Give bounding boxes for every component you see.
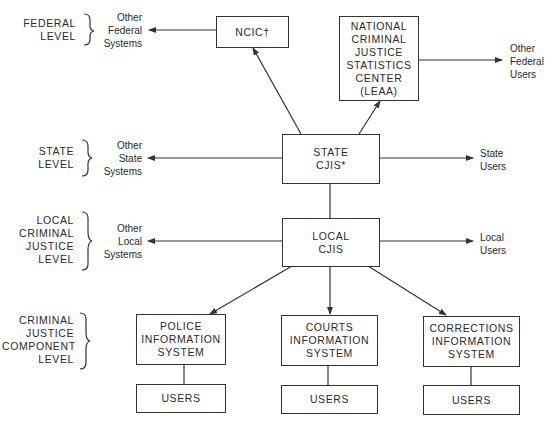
node-police-information-system: POLICE INFORMATION SYSTEM [136,314,226,365]
brace-state [82,140,92,176]
external-other-federal-systems: Other Federal Systems [96,11,142,50]
node-ncic: NCIC† [216,16,289,48]
node-courts-users: USERS [281,385,378,414]
external-other-federal-users: Other Federal Users [510,42,554,81]
node-state-cjis: STATE CJIS* [282,134,380,184]
node-corrections-users: USERS [423,385,520,415]
level-label-federal: FEDERALLEVEL [20,17,76,43]
node-police-users: USERS [136,384,226,413]
level-label-local: LOCALCRIMINAL JUSTICELEVEL [10,214,74,266]
brace-federal [84,14,94,45]
node-corrections-information-system: CORRECTIONS INFORMATION SYSTEM [423,316,520,367]
brace-local [82,212,92,270]
level-label-state: STATELEVEL [20,145,74,171]
external-other-state-systems: Other State Systems [96,139,142,178]
node-courts-information-system: COURTS INFORMATION SYSTEM [281,315,378,366]
brace-component [80,313,90,369]
node-local-cjis: LOCAL CJIS [282,218,380,267]
external-state-users: State Users [480,147,524,173]
external-local-users: Local Users [480,231,524,257]
edge-state-ncic [253,48,301,134]
edge-local-corrections [368,266,446,315]
edge-state-ncjss [359,101,380,134]
external-other-local-systems: Other Local Systems [96,222,142,261]
level-label-component: CRIMINALJUSTICE COMPONENTLEVEL [2,314,74,366]
node-ncjss: NATIONAL CRIMINAL JUSTICE STATISTICS CEN… [339,16,419,101]
edge-local-police [210,266,292,314]
